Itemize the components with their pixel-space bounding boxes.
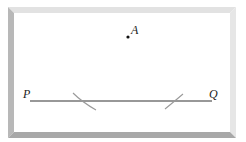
- frame-top: [8, 7, 236, 13]
- label-p: P: [22, 87, 31, 101]
- bevel-frame: [8, 7, 236, 138]
- frame-bottom: [8, 132, 236, 138]
- canvas: [14, 13, 230, 132]
- frame-right: [230, 7, 236, 138]
- point-a-dot: [126, 35, 129, 38]
- label-q: Q: [209, 87, 218, 101]
- frame-left: [8, 7, 14, 138]
- label-a: A: [130, 23, 139, 37]
- geometry-diagram: A P Q: [0, 0, 246, 142]
